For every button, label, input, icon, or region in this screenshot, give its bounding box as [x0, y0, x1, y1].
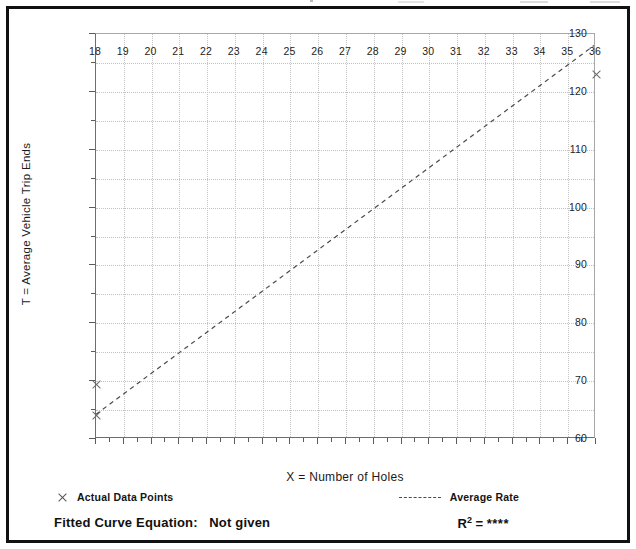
r-squared-exponent: 2 [467, 515, 472, 525]
x-tick-major [262, 438, 263, 444]
x-tick-minor [470, 438, 471, 442]
x-tick-label: 21 [172, 45, 184, 57]
y-tick-major [89, 33, 95, 34]
x-tick-label: 32 [478, 45, 490, 57]
fitted-curve-value: Not given [209, 515, 270, 530]
x-tick-major [428, 438, 429, 444]
x-tick-minor [137, 438, 138, 442]
x-tick-major [484, 438, 485, 444]
y-tick-minor [91, 409, 95, 410]
x-tick-major [317, 438, 318, 444]
legend-item-average-rate: Average Rate [399, 491, 519, 503]
y-tick-label: 120 [569, 85, 587, 97]
y-tick-major [89, 207, 95, 208]
r-squared-value: R2 = **** [458, 515, 510, 531]
y-tick-minor [91, 236, 95, 237]
x-tick-major [567, 438, 568, 444]
x-tick-minor [192, 438, 193, 442]
x-marker-icon [57, 492, 68, 503]
plot-area [95, 33, 595, 438]
x-tick-major [206, 438, 207, 444]
x-tick-label: 36 [589, 45, 601, 57]
x-tick-minor [276, 438, 277, 442]
x-tick-label: 19 [117, 45, 129, 57]
x-tick-major [539, 438, 540, 444]
chart-footer: Fitted Curve Equation: Not given R2 = **… [9, 515, 627, 540]
legend-item-actual-data-points: Actual Data Points [57, 491, 173, 503]
x-tick-minor [442, 438, 443, 442]
data-point-marker [591, 69, 602, 80]
y-tick-label: 100 [569, 201, 587, 213]
x-tick-label: 20 [145, 45, 157, 57]
x-tick-minor [220, 438, 221, 442]
x-axis-title: X = Number of Holes [95, 470, 595, 484]
r-squared-symbol: R [458, 516, 467, 531]
x-tick-major [289, 438, 290, 444]
y-tick-label: 80 [575, 316, 587, 328]
x-tick-major [95, 438, 96, 444]
chart-page: 60708090100110120130 1819202122232425262… [0, 0, 636, 549]
y-tick-major [89, 149, 95, 150]
data-point-marker [91, 410, 102, 421]
y-tick-label: 60 [575, 432, 587, 444]
x-tick-minor [303, 438, 304, 442]
y-tick-major [89, 264, 95, 265]
x-tick-label: 34 [533, 45, 545, 57]
x-tick-minor [414, 438, 415, 442]
x-tick-label: 29 [395, 45, 407, 57]
x-tick-label: 24 [256, 45, 268, 57]
x-tick-minor [498, 438, 499, 442]
r-squared-stars: **** [487, 516, 509, 531]
y-tick-label: 90 [575, 258, 587, 270]
y-tick-minor [91, 178, 95, 179]
x-tick-major [373, 438, 374, 444]
x-tick-major [345, 438, 346, 444]
dashed-line-icon [399, 497, 441, 498]
scan-artifact-band [0, 0, 636, 5]
y-tick-minor [91, 293, 95, 294]
y-tick-minor [91, 120, 95, 121]
x-tick-label: 33 [506, 45, 518, 57]
x-tick-major [123, 438, 124, 444]
y-tick-major [89, 91, 95, 92]
footer-divider [9, 540, 627, 543]
legend-label-actual-data-points: Actual Data Points [77, 491, 173, 503]
x-tick-label: 26 [311, 45, 323, 57]
x-tick-label: 30 [422, 45, 434, 57]
x-tick-minor [109, 438, 110, 442]
x-tick-minor [331, 438, 332, 442]
y-tick-label: 130 [569, 27, 587, 39]
y-tick-label: 110 [570, 143, 587, 155]
y-tick-label: 70 [575, 374, 587, 386]
y-tick-minor [91, 62, 95, 63]
y-axis-title: T = Average Vehicle Trip Ends [20, 114, 32, 334]
x-tick-label: 23 [228, 45, 240, 57]
x-tick-major [595, 438, 596, 444]
x-tick-label: 31 [450, 45, 462, 57]
x-tick-major [512, 438, 513, 444]
x-tick-minor [164, 438, 165, 442]
x-tick-label: 35 [561, 45, 573, 57]
plot-wrapper: 60708090100110120130 1819202122232425262… [95, 33, 595, 438]
x-tick-label: 18 [89, 45, 101, 57]
x-tick-label: 25 [283, 45, 295, 57]
x-tick-minor [553, 438, 554, 442]
y-tick-major [89, 380, 95, 381]
x-tick-major [234, 438, 235, 444]
average-rate-trendline [96, 34, 594, 437]
x-tick-label: 27 [339, 45, 351, 57]
x-tick-minor [387, 438, 388, 442]
x-tick-major [178, 438, 179, 444]
x-tick-major [456, 438, 457, 444]
legend-label-average-rate: Average Rate [450, 491, 519, 503]
x-tick-major [151, 438, 152, 444]
x-tick-minor [526, 438, 527, 442]
y-tick-major [89, 322, 95, 323]
chart-legend: Actual Data Points Average Rate [9, 489, 627, 513]
x-tick-label: 28 [367, 45, 379, 57]
fitted-curve-label: Fitted Curve Equation: [54, 515, 198, 530]
y-tick-minor [91, 351, 95, 352]
fitted-curve-equation: Fitted Curve Equation: Not given [54, 515, 270, 530]
x-tick-label: 22 [200, 45, 212, 57]
x-tick-major [401, 438, 402, 444]
